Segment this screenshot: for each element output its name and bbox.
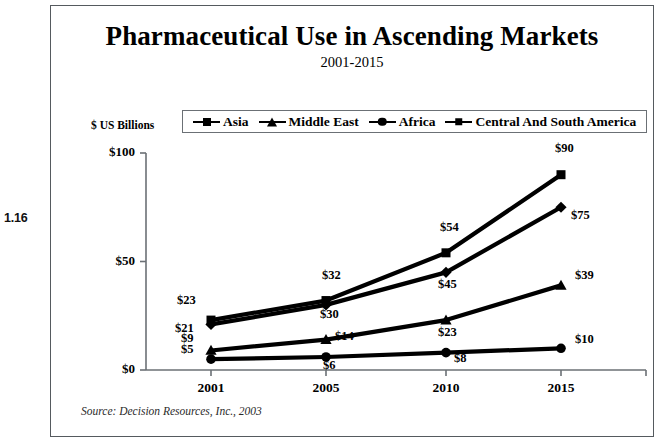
data-point-label: $8 [454,351,467,366]
data-point-label: $10 [575,332,594,347]
y-axis-tick-label: $50 [116,253,136,269]
x-axis-tick-label: 2005 [286,380,366,396]
data-point-label: $21 [175,321,194,336]
x-axis-tick-label: 2010 [406,380,486,396]
data-point-label: $14 [335,329,354,344]
data-point-label: $30 [320,307,339,322]
y-axis-tick-label: $0 [122,361,135,377]
data-point-label: $54 [440,220,459,235]
data-point-label: $45 [438,277,457,292]
data-point-label: $23 [438,325,457,340]
data-point-label: $32 [322,268,341,283]
data-point-label: $75 [571,208,590,223]
data-point-label: $39 [575,268,594,283]
figure-number: 1.16 [4,211,28,225]
data-point-label: $5 [181,342,194,357]
x-axis-tick-label: 2015 [521,380,601,396]
data-point-label: $90 [555,141,574,156]
x-axis-tick-label: 2001 [171,380,251,396]
source-note: Source: Decision Resources, Inc., 2003 [81,405,262,417]
data-point-label: $23 [177,293,196,308]
plot-area [51,6,655,438]
y-axis-tick-label: $100 [109,144,135,160]
chart-frame: Pharmaceutical Use in Ascending Markets … [50,5,654,437]
data-point-label: $6 [323,358,336,373]
